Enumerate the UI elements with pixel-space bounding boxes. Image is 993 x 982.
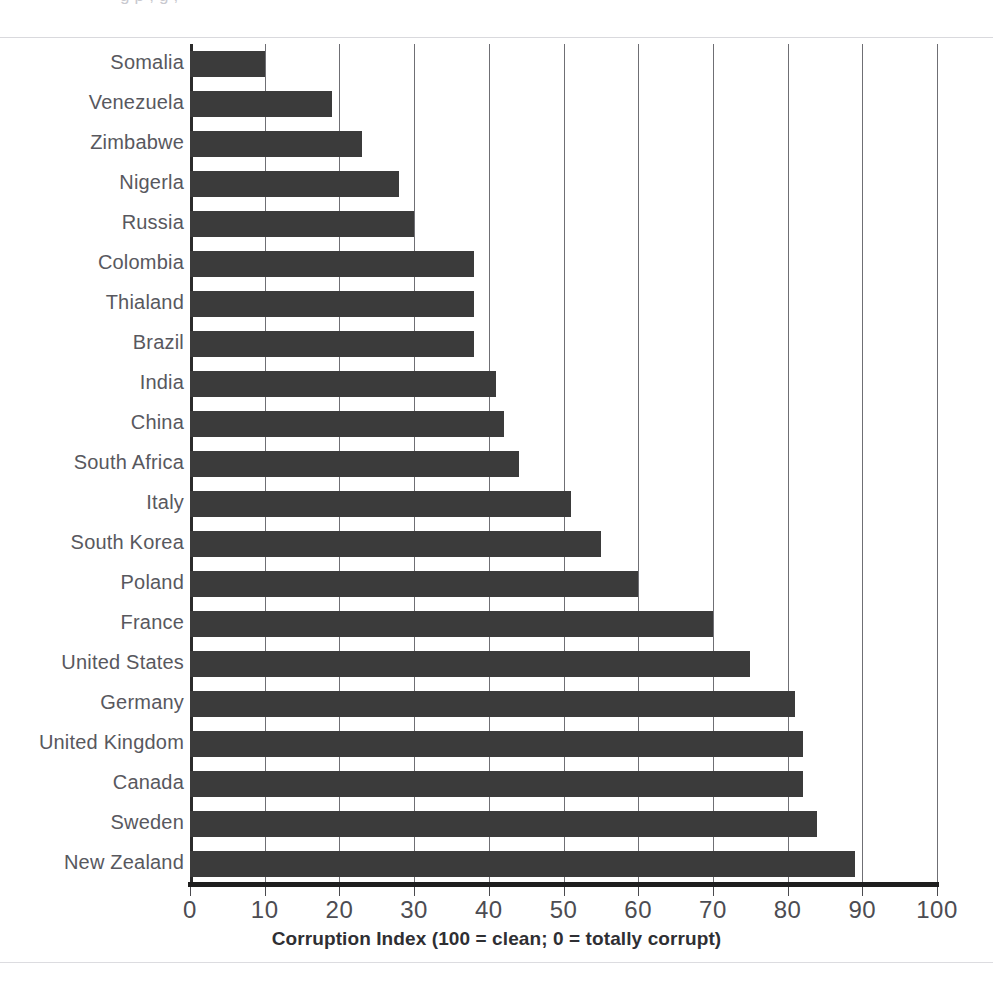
bar xyxy=(190,91,332,117)
bar xyxy=(190,611,713,637)
gridline-80 xyxy=(788,44,789,884)
gridline-70 xyxy=(713,44,714,884)
x-tick-40 xyxy=(489,887,490,896)
bar xyxy=(190,51,265,77)
bar xyxy=(190,571,638,597)
category-label: Russia xyxy=(14,211,184,234)
bar xyxy=(190,851,855,877)
x-tick-60 xyxy=(638,887,639,896)
category-label: Colombia xyxy=(14,251,184,274)
gridline-90 xyxy=(862,44,863,884)
x-tick-label-30: 30 xyxy=(374,896,454,924)
x-tick-10 xyxy=(265,887,266,896)
bar xyxy=(190,171,399,197)
category-label: United Kingdom xyxy=(14,731,184,754)
bottom-divider xyxy=(0,962,993,963)
bar-chart-figure: SomaliaVenezuelaZimbabweNigerlaRussiaCol… xyxy=(0,0,993,982)
category-label: India xyxy=(14,371,184,394)
bar xyxy=(190,451,519,477)
x-tick-80 xyxy=(788,887,789,896)
category-label: Somalia xyxy=(14,51,184,74)
bar xyxy=(190,531,601,557)
x-tick-label-70: 70 xyxy=(673,896,753,924)
category-label: Canada xyxy=(14,771,184,794)
x-tick-90 xyxy=(862,887,863,896)
x-tick-label-50: 50 xyxy=(524,896,604,924)
bar xyxy=(190,331,474,357)
category-label: Nigerla xyxy=(14,171,184,194)
bar xyxy=(190,131,362,157)
category-label: South Africa xyxy=(14,451,184,474)
category-label: Brazil xyxy=(14,331,184,354)
x-tick-label-20: 20 xyxy=(299,896,379,924)
x-tick-70 xyxy=(713,887,714,896)
category-label: Thialand xyxy=(14,291,184,314)
category-label: Poland xyxy=(14,571,184,594)
gridline-100 xyxy=(937,44,938,884)
category-label: Italy xyxy=(14,491,184,514)
bar xyxy=(190,651,750,677)
category-label: South Korea xyxy=(14,531,184,554)
x-tick-20 xyxy=(339,887,340,896)
plot-area xyxy=(190,44,937,884)
gridline-50 xyxy=(564,44,565,884)
category-axis-labels: SomaliaVenezuelaZimbabweNigerlaRussiaCol… xyxy=(8,0,184,982)
category-label: United States xyxy=(14,651,184,674)
x-tick-label-80: 80 xyxy=(748,896,828,924)
bar xyxy=(190,491,571,517)
x-tick-label-10: 10 xyxy=(225,896,305,924)
bar xyxy=(190,691,795,717)
x-tick-100 xyxy=(937,887,938,896)
bar xyxy=(190,371,496,397)
x-tick-30 xyxy=(414,887,415,896)
gridline-60 xyxy=(638,44,639,884)
bar xyxy=(190,771,803,797)
x-tick-50 xyxy=(564,887,565,896)
x-tick-label-100: 100 xyxy=(897,896,977,924)
category-label: Venezuela xyxy=(14,91,184,114)
x-tick-label-40: 40 xyxy=(449,896,529,924)
x-tick-label-0: 0 xyxy=(150,896,230,924)
x-axis-title: Corruption Index (100 = clean; 0 = total… xyxy=(0,928,993,950)
bar xyxy=(190,211,414,237)
x-tick-label-60: 60 xyxy=(598,896,678,924)
category-label: Sweden xyxy=(14,811,184,834)
x-tick-0 xyxy=(190,887,191,896)
category-label: New Zealand xyxy=(14,851,184,874)
x-tick-label-90: 90 xyxy=(822,896,902,924)
bar xyxy=(190,411,504,437)
bar xyxy=(190,731,803,757)
bar xyxy=(190,291,474,317)
bar xyxy=(190,811,817,837)
bar xyxy=(190,251,474,277)
category-label: Zimbabwe xyxy=(14,131,184,154)
category-label: Germany xyxy=(14,691,184,714)
category-label: France xyxy=(14,611,184,634)
category-label: China xyxy=(14,411,184,434)
